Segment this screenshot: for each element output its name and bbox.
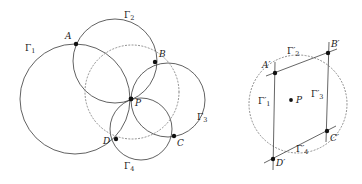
circle-gamma3 [131,63,205,137]
point-A-prime [273,71,277,75]
label-point-A-prime: A′ [262,61,271,70]
point-P [129,97,134,102]
point-D-prime [271,157,275,161]
gamma4-subscript: 4 [130,165,134,173]
gamma3-prime-subscript: 3 [319,93,323,101]
point-A [74,42,78,46]
label-point-B-prime: B′ [331,40,340,49]
label-line-gamma3-prime: Γ′3 [311,90,323,99]
label-circle-gamma3: Γ3 [197,113,207,122]
label-circle-gamma4: Γ4 [124,162,134,171]
gamma1-prime-subscript: 1 [266,100,270,108]
label-circle-gamma2: Γ2 [124,11,134,20]
figure-root: A B C D P Γ1 Γ2 Γ3 Γ4 A′ B′ C′ D′ P Γ′1 … [0,0,362,184]
point-D [114,137,118,141]
label-point-C-prime: C′ [330,134,339,143]
label-point-D-prime: D′ [276,159,285,168]
label-line-gamma2-prime: Γ′2 [287,47,299,56]
segment-gamma3-prime [326,42,329,142]
circle-gamma1 [20,44,130,154]
point-P-prime [289,98,293,102]
gamma4-prime-subscript: 4 [304,148,308,156]
gamma2-prime-subscript: 2 [295,50,299,58]
label-line-gamma4-prime: Γ′4 [296,145,308,154]
label-point-C: C [177,139,184,148]
gamma2-subscript: 2 [130,14,134,22]
label-point-P: P [135,99,141,108]
gamma3-subscript: 3 [203,116,207,124]
label-point-P-prime: P [296,96,302,105]
label-line-gamma1-prime: Γ′1 [258,97,270,106]
point-B-prime [326,51,330,55]
label-point-A: A [65,32,72,41]
label-point-B: B [159,50,166,59]
point-C-prime [325,129,329,133]
point-C [172,134,176,138]
segment-gamma1-prime [273,62,275,170]
label-point-D: D [103,137,110,146]
point-B [153,60,157,64]
gamma1-subscript: 1 [31,47,35,55]
label-circle-gamma1: Γ1 [25,44,35,53]
figure-canvas [0,0,362,184]
